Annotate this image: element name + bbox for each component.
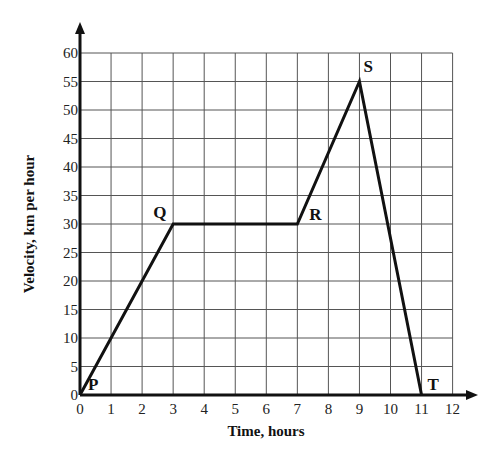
- x-tick-label: 1: [107, 401, 115, 417]
- y-tick-label: 15: [63, 302, 78, 318]
- point-label-t: T: [428, 375, 440, 394]
- y-tick-label: 40: [63, 159, 78, 175]
- x-tick-label: 12: [445, 401, 460, 417]
- x-tick-label: 7: [294, 401, 302, 417]
- x-tick-label: 2: [138, 401, 146, 417]
- y-tick-label: 35: [63, 188, 78, 204]
- y-axis-ticks: 051015202530354045505560: [63, 45, 78, 403]
- x-tick-label: 0: [76, 401, 84, 417]
- y-tick-label: 10: [63, 330, 78, 346]
- point-label-r: R: [309, 205, 322, 224]
- y-tick-label: 45: [63, 131, 78, 147]
- y-tick-label: 20: [63, 273, 78, 289]
- x-axis-ticks: 0123456789101112: [76, 401, 460, 417]
- y-axis-arrow-icon: [75, 22, 85, 34]
- x-tick-label: 9: [356, 401, 364, 417]
- x-axis-arrow-icon: [466, 390, 478, 400]
- x-tick-label: 4: [200, 401, 208, 417]
- y-tick-label: 55: [63, 74, 78, 90]
- y-tick-label: 60: [63, 45, 78, 61]
- x-tick-label: 10: [383, 401, 398, 417]
- point-label-p: P: [88, 375, 98, 394]
- x-tick-label: 6: [263, 401, 271, 417]
- velocity-time-chart: 0123456789101112 05101520253035404550556…: [0, 0, 499, 461]
- x-tick-label: 11: [414, 401, 428, 417]
- point-label-s: S: [363, 57, 372, 76]
- point-label-q: Q: [153, 203, 166, 222]
- y-tick-label: 30: [63, 216, 78, 232]
- x-tick-label: 8: [325, 401, 333, 417]
- y-tick-label: 5: [71, 359, 79, 375]
- y-axis-title: Velocity, km per hour: [21, 154, 37, 293]
- x-tick-label: 3: [169, 401, 177, 417]
- y-tick-label: 25: [63, 245, 78, 261]
- y-tick-label: 0: [71, 387, 79, 403]
- velocity-line: [80, 82, 422, 396]
- x-tick-label: 5: [232, 401, 240, 417]
- axes: [75, 22, 478, 400]
- y-tick-label: 50: [63, 102, 78, 118]
- x-axis-title: Time, hours: [227, 423, 304, 439]
